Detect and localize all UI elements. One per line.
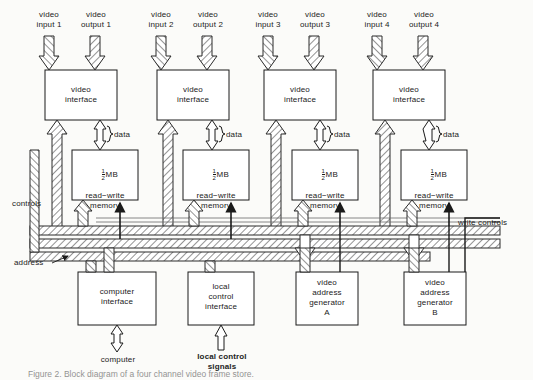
drop-local-ctl	[205, 261, 215, 272]
video-input-label-2: video input 2	[136, 10, 186, 29]
video-output-label-1: video output 1	[70, 10, 122, 29]
video-input-arrow-3	[258, 36, 278, 70]
memory-text-3: read−write memory	[292, 191, 358, 211]
data-brace-3	[327, 126, 333, 142]
local-control-port-arrow	[215, 325, 227, 350]
vag-b-label: video address generator B	[404, 278, 466, 318]
video-interface-label-1: video interface	[45, 85, 117, 105]
memory-text-4: read−write memory	[401, 191, 467, 211]
video-output-arrow-3	[304, 36, 324, 70]
drop-vag-b-stub	[409, 248, 419, 272]
video-output-arrow-1	[85, 36, 105, 70]
write-controls-label: write controls	[458, 218, 532, 228]
drop-computer-iface	[86, 261, 96, 272]
data-brace-4	[436, 126, 442, 142]
data-riser-2	[158, 120, 178, 232]
data-riser-3	[266, 120, 286, 232]
memory-text-2: read−write memory	[183, 191, 249, 211]
memory-fraction-1: 12MB	[102, 170, 118, 179]
address-label: address	[14, 258, 58, 268]
vag-a-label: video address generator A	[296, 278, 358, 318]
data-riser-4	[375, 120, 395, 232]
data-label-3: data	[334, 130, 360, 140]
data-label-2: data	[226, 130, 252, 140]
video-interface-label-2: video interface	[157, 85, 229, 105]
drop-computer-iface-2	[104, 248, 114, 272]
video-interface-label-3: video interface	[264, 85, 336, 105]
memory-fraction-2: 12MB	[213, 170, 229, 179]
data-arrow-1	[94, 120, 106, 150]
video-input-label-3: video input 3	[243, 10, 293, 29]
data-riser-1	[47, 120, 67, 232]
memory-fraction-3: 12MB	[322, 170, 338, 179]
drop-vag-a-stub	[300, 248, 310, 272]
video-input-arrow-2	[151, 36, 171, 70]
data-label-4: data	[443, 130, 469, 140]
video-output-label-2: video output 2	[182, 10, 234, 29]
video-input-arrow-4	[367, 36, 387, 70]
memory-fraction-4: 12MB	[431, 170, 447, 179]
video-input-label-4: video input 4	[352, 10, 402, 29]
memory-label-1: 12MB read−write memory	[72, 158, 138, 231]
computer-port-label: computer	[92, 355, 144, 365]
local-control-label: local control interface	[188, 282, 254, 312]
figure-caption: Figure 2. Block diagram of a four channe…	[28, 369, 254, 379]
memory-label-3: 12MB read−write memory	[292, 158, 358, 231]
video-output-arrow-2	[197, 36, 217, 70]
video-input-label-1: video input 1	[24, 10, 74, 29]
data-arrow-4	[423, 120, 435, 150]
data-brace-2	[219, 126, 225, 142]
data-brace-1	[107, 126, 113, 142]
video-output-label-4: video output 4	[398, 10, 450, 29]
controls-label: controls	[12, 199, 56, 209]
memory-label-2: 12MB read−write memory	[183, 158, 249, 231]
video-output-label-3: video output 3	[289, 10, 341, 29]
data-arrow-3	[314, 120, 326, 150]
video-output-arrow-4	[413, 36, 433, 70]
computer-port-arrow	[111, 325, 123, 352]
bus-band-address	[30, 252, 430, 261]
data-label-1: data	[114, 130, 140, 140]
data-arrow-2	[206, 120, 218, 150]
memory-text-1: read−write memory	[72, 191, 138, 211]
bus-band-data	[30, 239, 500, 248]
video-interface-label-4: video interface	[373, 85, 445, 105]
figure-canvas: video input 1 video output 1 video input…	[0, 0, 533, 380]
computer-interface-label: computer interface	[78, 287, 156, 307]
video-input-arrow-1	[39, 36, 59, 70]
